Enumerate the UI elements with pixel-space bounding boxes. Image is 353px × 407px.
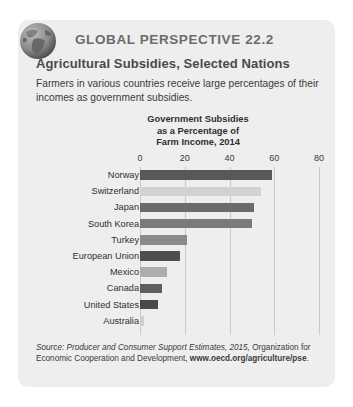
- source-title: Producer and Consumer Support Estimates,…: [67, 343, 250, 352]
- bar-category-label: Australia: [36, 316, 139, 326]
- x-axis-tick-labels: 020406080: [36, 153, 319, 167]
- bar: [140, 284, 162, 294]
- bar-category-label: Japan: [36, 202, 139, 212]
- bar: [140, 170, 272, 180]
- bar-category-label: European Union: [36, 251, 139, 261]
- source-period: .: [306, 354, 308, 363]
- chart-title-line: Government Subsidies: [128, 114, 268, 126]
- bar: [140, 187, 261, 197]
- chart-rows: NorwaySwitzerlandJapanSouth KoreaTurkeyE…: [36, 167, 319, 335]
- bar: [140, 235, 187, 245]
- bar-category-label: South Korea: [36, 219, 139, 229]
- bar: [140, 203, 254, 213]
- bar: [140, 267, 167, 277]
- bar-row: Australia: [36, 313, 319, 329]
- bar-row: Mexico: [36, 264, 319, 280]
- x-tick-label: 40: [224, 153, 234, 163]
- bar-row: Canada: [36, 280, 319, 296]
- page-title: GLOBAL PERSPECTIVE 22.2: [75, 32, 274, 47]
- bar-row: United States: [36, 297, 319, 313]
- bar-category-label: Switzerland: [36, 186, 139, 196]
- bar-row: South Korea: [36, 216, 319, 232]
- bar-chart: 020406080 NorwaySwitzerlandJapanSouth Ko…: [36, 153, 319, 335]
- gridline: [319, 167, 320, 335]
- source-note: Source: Producer and Consumer Support Es…: [36, 342, 321, 364]
- bar-row: Japan: [36, 199, 319, 215]
- bar: [140, 316, 144, 326]
- bar-row: Norway: [36, 167, 319, 183]
- chart-title: Government Subsidiesas a Percentage ofFa…: [128, 114, 268, 149]
- bar-category-label: Canada: [36, 283, 139, 293]
- bar-row: European Union: [36, 248, 319, 264]
- bar-row: Turkey: [36, 232, 319, 248]
- chart-title-line: Farm Income, 2014: [128, 137, 268, 149]
- x-tick-label: 0: [137, 153, 142, 163]
- bar-category-label: United States: [36, 300, 139, 310]
- bar-row: Switzerland: [36, 183, 319, 199]
- chart-title-line: as a Percentage of: [128, 126, 268, 138]
- x-tick-label: 80: [314, 153, 324, 163]
- bar: [140, 219, 252, 229]
- bar: [140, 300, 158, 310]
- section-subtitle: Agricultural Subsidies, Selected Nations: [36, 56, 290, 71]
- intro-paragraph: Farmers in various countries receive lar…: [36, 77, 319, 104]
- x-tick-label: 20: [180, 153, 190, 163]
- source-prefix: Source:: [36, 343, 64, 352]
- bar-category-label: Mexico: [36, 267, 139, 277]
- bar-category-label: Turkey: [36, 235, 139, 245]
- bar-category-label: Norway: [36, 170, 139, 180]
- bar: [140, 251, 180, 261]
- x-tick-label: 60: [269, 153, 279, 163]
- global-perspective-card: GLOBAL PERSPECTIVE 22.2 Agricultural Sub…: [18, 20, 335, 387]
- source-url: www.oecd.org/agriculture/pse: [190, 354, 307, 363]
